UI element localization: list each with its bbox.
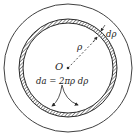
thickness-arrow-outer <box>101 25 105 31</box>
annulus-diagram: O ρ dρ da = 2πρ dρ <box>0 0 136 137</box>
area-formula-label: da = 2πρ dρ <box>36 76 88 86</box>
thickness-label: dρ <box>106 29 116 39</box>
thickness-arrow-inner <box>93 37 97 42</box>
center-label: O <box>55 61 63 72</box>
area-leader-left <box>52 85 62 106</box>
radius-label: ρ <box>76 42 83 52</box>
area-leader-right <box>62 85 78 105</box>
